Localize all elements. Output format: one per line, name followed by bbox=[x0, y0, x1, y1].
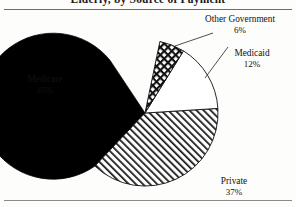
slice-label-medicare-name: Medicare bbox=[27, 74, 62, 84]
slice-label-private: Private 37% bbox=[198, 176, 270, 197]
slice-label-medicaid-name: Medicaid bbox=[234, 48, 269, 58]
slice-label-other-government-name: Other Government bbox=[205, 14, 275, 24]
slice-label-medicaid: Medicaid 12% bbox=[216, 48, 288, 69]
slice-label-other-government-pct: 6% bbox=[186, 25, 294, 35]
slice-label-medicare: Medicare 45% bbox=[6, 74, 84, 95]
slice-label-medicare-pct: 45% bbox=[6, 85, 84, 95]
slice-label-private-pct: 37% bbox=[198, 187, 270, 197]
slice-label-medicaid-pct: 12% bbox=[216, 59, 288, 69]
slice-label-private-name: Private bbox=[221, 176, 247, 186]
slice-label-other-government: Other Government 6% bbox=[186, 14, 294, 35]
pie-chart-figure: Elderly, by Source of Payment bbox=[0, 0, 296, 207]
